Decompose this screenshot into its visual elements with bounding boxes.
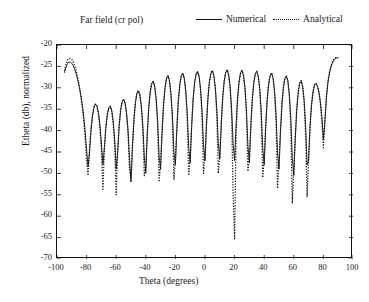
legend-label-analytical: Analytical xyxy=(303,14,343,24)
y-tick-label: -70 xyxy=(22,252,52,262)
plot-area xyxy=(56,44,352,258)
legend-solid-line-icon xyxy=(196,19,222,20)
y-tick-label: -65 xyxy=(22,231,52,241)
chart-legend: Numerical Analytical xyxy=(196,14,343,24)
chart-title: Far field (cr pol) xyxy=(80,15,143,25)
y-tick-label: -55 xyxy=(22,188,52,198)
legend-label-numerical: Numerical xyxy=(226,14,266,24)
x-tick-label: 100 xyxy=(335,262,369,272)
y-tick-label: -60 xyxy=(22,209,52,219)
x-axis-title: Theta (degrees) xyxy=(139,276,198,286)
y-axis-title: Etheta (db), normalized xyxy=(21,31,31,171)
chart-root: Far field (cr pol) Numerical Analytical … xyxy=(0,0,369,302)
series-line-numerical xyxy=(64,58,338,182)
legend-item-numerical: Numerical xyxy=(196,14,266,24)
legend-dotted-line-icon xyxy=(273,19,299,20)
series-line-analytical xyxy=(64,57,338,239)
plot-svg xyxy=(57,45,353,259)
legend-item-analytical: Analytical xyxy=(273,14,343,24)
